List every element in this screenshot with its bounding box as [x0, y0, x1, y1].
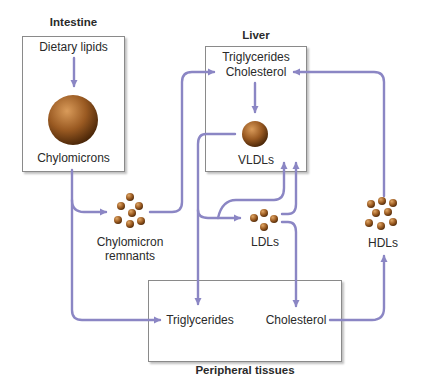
arrow-peripheral-chol-to-hdl [330, 256, 384, 320]
ldls-label: LDLs [240, 235, 290, 249]
peripheral-triglycerides-label: Triglycerides [160, 313, 240, 327]
liver-cholesterol-label: Cholesterol [205, 65, 307, 79]
peripheral-tissues-title: Peripheral tissues [148, 364, 342, 376]
liver-triglycerides-label: Triglycerides [205, 50, 307, 64]
arrow-chylomicron-to-remnants [72, 170, 106, 212]
chylomicron-remnants-label-line1: Chylomicron [90, 235, 170, 249]
peripheral-cholesterol-label: Cholesterol [258, 313, 334, 327]
arrow-remnants-to-liver [150, 72, 214, 212]
hdls-label: HDLs [360, 236, 406, 250]
vldls-label: VLDLs [205, 153, 307, 167]
chylomicron-remnants-cluster-icon [114, 193, 145, 228]
chylomicron-sphere-icon [48, 95, 98, 145]
hdl-cluster-icon [365, 197, 397, 230]
vldl-sphere-icon [242, 121, 268, 147]
arrow-idl-to-liver [218, 163, 284, 218]
liver-title: Liver [205, 29, 307, 41]
dietary-lipids-label: Dietary lipids [22, 40, 125, 54]
ldl-cluster-icon [250, 209, 278, 231]
arrow-hdl-to-liver [294, 72, 384, 196]
chylomicrons-label: Chylomicrons [22, 151, 125, 165]
intestine-title: Intestine [22, 16, 125, 28]
chylomicron-remnants-label-line2: remnants [90, 249, 170, 263]
